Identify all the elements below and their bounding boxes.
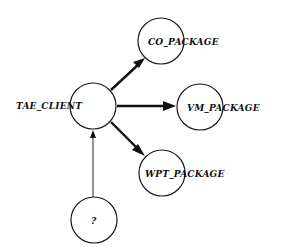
node-label: ?: [91, 216, 97, 226]
node-label: WPT_PACKAGE: [145, 169, 225, 179]
arrowhead-client: [90, 130, 96, 138]
edge-client-to-wpt: [111, 122, 139, 150]
node-unknown[interactable]: ?: [71, 197, 117, 243]
arrowhead-vm: [163, 101, 176, 111]
node-label: VM_PACKAGE: [187, 103, 260, 113]
node-co-package[interactable]: CO_PACKAGE: [138, 18, 219, 64]
node-label: TAE_CLIENT: [16, 101, 83, 111]
node-tae-client[interactable]: TAE_CLIENT: [16, 83, 116, 129]
node-label: CO_PACKAGE: [148, 37, 219, 47]
node-wpt-package[interactable]: WPT_PACKAGE: [139, 150, 225, 196]
node-vm-package[interactable]: VM_PACKAGE: [177, 84, 260, 130]
edge-client-to-co: [111, 63, 140, 90]
dependency-diagram: TAE_CLIENT CO_PACKAGE VM_PACKAGE WPT_PAC…: [0, 0, 292, 249]
